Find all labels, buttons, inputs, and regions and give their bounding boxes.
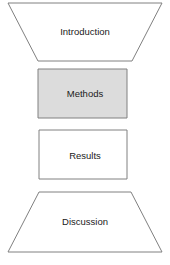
stage-label-methods: Methods bbox=[67, 88, 104, 99]
stage-label-discussion: Discussion bbox=[62, 216, 108, 227]
diagram-canvas: Introduction Methods Results Discussion bbox=[0, 0, 170, 265]
stage-label-introduction: Introduction bbox=[60, 26, 110, 37]
stage-label-results: Results bbox=[69, 150, 101, 161]
hourglass-structure-diagram: Introduction Methods Results Discussion bbox=[0, 0, 170, 265]
